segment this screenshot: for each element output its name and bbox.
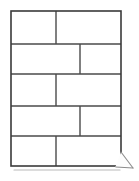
course-1-cell-right[interactable] (56, 11, 121, 44)
course-4-cell-left[interactable] (11, 106, 80, 136)
course-2-cell-right[interactable] (80, 44, 121, 74)
diagram-canvas: Running bond brick layout Rectangular sh… (0, 0, 139, 181)
course-2-cell-left[interactable] (11, 44, 80, 74)
brick-bond-diagram: Running bond brick layout Rectangular sh… (0, 0, 139, 181)
course-1-cell-left[interactable] (11, 11, 56, 44)
course-3-cell-left[interactable] (11, 74, 56, 106)
cell-group (11, 11, 121, 166)
course-4-cell-right[interactable] (80, 106, 121, 136)
course-5-cell-left[interactable] (11, 136, 56, 166)
course-5-cell-right[interactable] (56, 136, 121, 166)
course-3-cell-right[interactable] (56, 74, 121, 106)
